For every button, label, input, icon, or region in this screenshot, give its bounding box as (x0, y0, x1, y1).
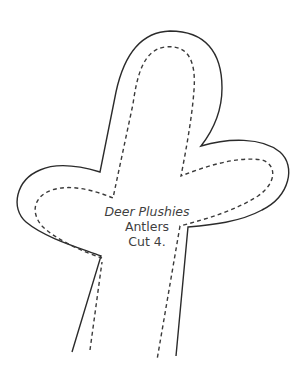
pattern-title: Deer Plushies (92, 204, 202, 219)
piece-name: Antlers (92, 219, 202, 234)
pattern-label: Deer Plushies Antlers Cut 4. (92, 204, 202, 249)
cut-instruction: Cut 4. (92, 234, 202, 249)
cut-line-outline (17, 31, 289, 356)
antler-pattern-drawing (0, 0, 301, 372)
